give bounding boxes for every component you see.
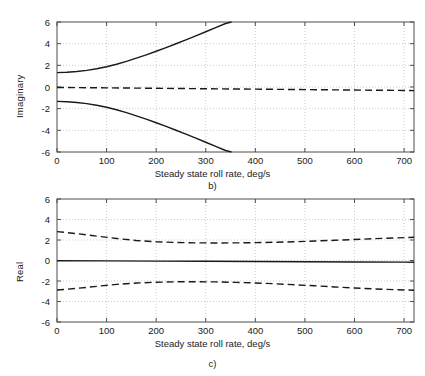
plot-imaginary-svg: 0100200300400500600700-6-4-20246 — [0, 0, 425, 190]
y-tick-label: 6 — [45, 194, 50, 205]
x-tick-label: 200 — [148, 155, 164, 166]
y-axis-label-real: Real — [14, 262, 25, 282]
panel-caption-c: c) — [0, 358, 425, 369]
x-tick-label: 600 — [347, 155, 363, 166]
x-tick-label: 300 — [198, 325, 214, 336]
y-tick-label: -6 — [42, 317, 50, 328]
y-tick-label: 0 — [45, 82, 50, 93]
y-tick-label: -2 — [42, 103, 50, 114]
x-tick-label: 100 — [99, 155, 115, 166]
x-tick-label: 500 — [297, 325, 313, 336]
y-tick-label: -4 — [42, 296, 50, 307]
y-axis-label-imaginary: Imaginary — [14, 74, 25, 118]
x-tick-label: 700 — [396, 325, 412, 336]
data-series-upper-dashed-branch — [57, 232, 414, 243]
y-tick-label: -4 — [42, 125, 50, 136]
x-tick-label: 400 — [247, 155, 263, 166]
y-tick-label: -6 — [42, 147, 50, 158]
gridlines-imaginary — [57, 22, 414, 152]
y-tick-label: 0 — [45, 255, 50, 266]
y-tick-label: -2 — [42, 276, 50, 287]
x-tick-label: 700 — [396, 155, 412, 166]
y-tick-label: 2 — [45, 60, 50, 71]
y-tick-label: 4 — [45, 38, 50, 49]
ticklabels-imaginary: 0100200300400500600700-6-4-20246 — [42, 17, 412, 167]
x-tick-label: 0 — [54, 155, 59, 166]
data-series-real-root-branch — [57, 87, 414, 90]
x-tick-label: 100 — [99, 325, 115, 336]
y-tick-label: 6 — [45, 17, 50, 28]
x-tick-label: 300 — [198, 155, 214, 166]
y-tick-label: 2 — [45, 235, 50, 246]
x-tick-label: 500 — [297, 155, 313, 166]
data-series-lower-dashed-branch — [57, 282, 414, 291]
data-series-zero-solid-branch — [57, 261, 414, 263]
x-axis-label-imaginary: Steady state roll rate, deg/s — [0, 168, 425, 179]
x-tick-label: 200 — [148, 325, 164, 336]
x-tick-label: 400 — [247, 325, 263, 336]
x-tick-label: 600 — [347, 325, 363, 336]
ticklabels-real: 0100200300400500600700-6-4-20246 — [42, 194, 412, 337]
figure-root: 0100200300400500600700-6-4-20246 Imagina… — [0, 0, 425, 376]
y-tick-label: 4 — [45, 214, 50, 225]
x-tick-label: 0 — [54, 325, 59, 336]
panel-imaginary: 0100200300400500600700-6-4-20246 Imagina… — [0, 0, 425, 190]
x-axis-label-real: Steady state roll rate, deg/s — [0, 338, 425, 349]
panel-real: 0100200300400500600700-6-4-20246 Real St… — [0, 186, 425, 376]
